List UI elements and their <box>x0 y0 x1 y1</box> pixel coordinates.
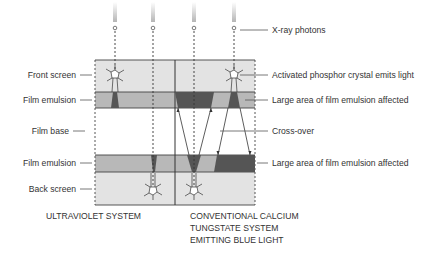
label-xray-photons: X-ray photons <box>272 25 326 35</box>
label-film-base: Film base <box>32 126 69 136</box>
label-large-area-top: Large area of film emulsion affected <box>272 95 408 105</box>
label-film-emulsion-bottom: Film emulsion <box>23 158 76 168</box>
caption-ultraviolet-system: ULTRAVIOLET SYSTEM <box>46 210 141 222</box>
caption-conventional-system: CONVENTIONAL CALCIUM TUNGSTATE SYSTEM EM… <box>190 210 299 246</box>
label-large-area-bottom: Large area of film emulsion affected <box>272 158 408 168</box>
layer-stack <box>95 60 255 205</box>
label-activated-crystal: Activated phosphor crystal emits light <box>272 70 414 80</box>
label-front-screen: Front screen <box>28 70 76 80</box>
label-cross-over: Cross-over <box>272 126 314 136</box>
caption-line-1: CONVENTIONAL CALCIUM <box>190 210 299 222</box>
label-back-screen: Back screen <box>29 184 76 194</box>
caption-line-2: TUNGSTATE SYSTEM <box>190 222 299 234</box>
caption-line-3: EMITTING BLUE LIGHT <box>190 234 299 246</box>
label-film-emulsion-top: Film emulsion <box>23 95 76 105</box>
